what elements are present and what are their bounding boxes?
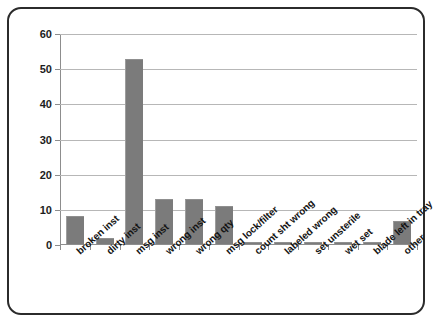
y-tick-mark [55, 34, 60, 35]
gridline [60, 175, 417, 176]
x-axis-labels: broken instdirty instmsg instwrong instw… [60, 249, 417, 315]
y-tick-label: 60 [40, 29, 52, 40]
y-tick-mark [55, 140, 60, 141]
y-tick-label: 40 [40, 99, 52, 110]
gridline [60, 140, 417, 141]
y-tick-label: 50 [40, 64, 52, 75]
gridline [60, 34, 417, 35]
y-tick-mark [55, 175, 60, 176]
gridline [60, 69, 417, 70]
gridline [60, 210, 417, 211]
bar[interactable] [125, 59, 143, 244]
y-tick-label: 10 [40, 204, 52, 215]
chart-frame: 0102030405060 broken instdirty instmsg i… [7, 7, 425, 315]
y-tick-mark [55, 69, 60, 70]
bar[interactable] [66, 216, 84, 244]
y-tick-label: 30 [40, 134, 52, 145]
gridline [60, 104, 417, 105]
y-tick-mark [55, 104, 60, 105]
y-tick-label: 20 [40, 169, 52, 180]
y-tick-mark [55, 210, 60, 211]
y-tick-label: 0 [46, 240, 52, 251]
